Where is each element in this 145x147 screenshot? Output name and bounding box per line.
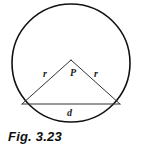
figure-caption: Fig. 3.23 bbox=[8, 129, 62, 144]
center-point-label: P bbox=[70, 68, 76, 78]
radius-left-label: r bbox=[43, 69, 47, 79]
radius-left-line bbox=[22, 60, 71, 104]
radius-right-line bbox=[71, 60, 120, 104]
figure-container: r P r d Fig. 3.23 bbox=[0, 0, 145, 147]
chord-label: d bbox=[67, 108, 72, 118]
radius-right-label: r bbox=[94, 69, 98, 79]
